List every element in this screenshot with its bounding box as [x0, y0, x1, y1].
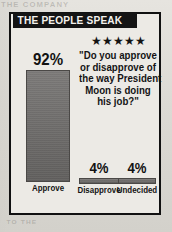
- panel-content: ★★★★★ "Do you approve or disapprove of t…: [11, 29, 159, 213]
- question-line-1: "Do you approve: [79, 50, 157, 62]
- panel-title: THE PEOPLE SPEAK: [13, 15, 122, 26]
- bar-rect-undecided: [118, 178, 156, 184]
- panel-header-banner: THE PEOPLE SPEAK: [13, 13, 137, 28]
- poll-infographic-panel: THE PEOPLE SPEAK ★★★★★ "Do you approve o…: [9, 12, 161, 215]
- background-bleed-text-bottom-left: TO THE: [7, 219, 38, 225]
- question-line-4: Moon is doing: [79, 85, 157, 97]
- question-line-3: the way President: [79, 73, 157, 85]
- bar-group-undecided: 4% Undecided: [115, 161, 159, 195]
- bar-group-approve: 92% Approve: [17, 51, 79, 193]
- newsprint-page: THE COMPANY AND TO THE SAID THE PEOPLE S…: [0, 0, 172, 232]
- question-line-5: his job?": [79, 96, 157, 108]
- bar-label-undecided: Undecided: [117, 185, 157, 195]
- bar-rect-approve: [26, 70, 70, 182]
- bar-label-approve: Approve: [19, 183, 76, 193]
- question-line-2: or disapprove of: [79, 62, 157, 74]
- bar-rect-disapprove: [79, 178, 119, 184]
- bar-value-undecided: 4%: [116, 161, 157, 176]
- poll-question-text: "Do you approve or disapprove of the way…: [79, 50, 157, 108]
- background-bleed-text-top-left: THE COMPANY: [1, 1, 69, 8]
- poll-question-block: ★★★★★ "Do you approve or disapprove of t…: [77, 35, 159, 108]
- bar-value-approve: 92%: [19, 51, 77, 68]
- five-star-icon: ★★★★★: [77, 35, 159, 48]
